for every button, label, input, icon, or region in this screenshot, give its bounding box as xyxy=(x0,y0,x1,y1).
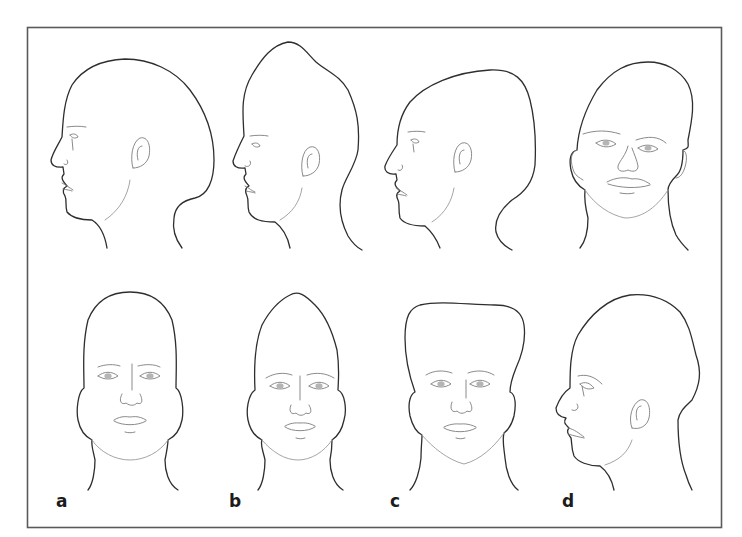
iris-left xyxy=(104,373,111,378)
iris-left xyxy=(437,381,444,386)
iris-right xyxy=(476,381,483,386)
iris-right xyxy=(315,383,322,388)
iris-right xyxy=(146,373,153,378)
panel-label-b: b xyxy=(229,491,241,511)
iris-left xyxy=(603,140,610,145)
iris-right xyxy=(645,145,652,150)
panel-label-d: d xyxy=(562,491,574,511)
iris-left xyxy=(276,383,283,388)
background xyxy=(0,0,742,537)
panel-label-a: a xyxy=(56,491,67,511)
figure-illustration: a b c d xyxy=(0,0,742,537)
panel-label-c: c xyxy=(390,491,400,511)
